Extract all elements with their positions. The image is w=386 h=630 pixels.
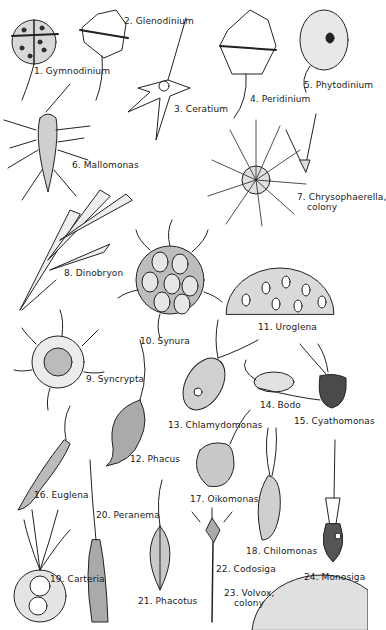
label-volvox-line1: 23. Volvox,	[224, 588, 274, 598]
label-phacotus: 21. Phacotus	[138, 596, 197, 606]
label-codosiga: 22. Codosiga	[216, 564, 276, 574]
chilomonas-drawing	[258, 428, 280, 540]
label-uroglena: 11. Uroglena	[258, 322, 317, 332]
label-gymnodinium: 1. Gymnodinium	[34, 66, 110, 76]
label-peridinium: 4. Peridinium	[250, 94, 310, 104]
synura-drawing	[118, 220, 222, 338]
label-bodo: 14. Bodo	[260, 400, 301, 410]
label-phytodinium: 5. Phytodinium	[304, 80, 373, 90]
label-carteria: 19. Carteria	[50, 574, 105, 584]
label-phacus: 12. Phacus	[130, 454, 180, 464]
phacus-drawing	[106, 340, 145, 466]
label-volvox: 23. Volvox, colony	[224, 588, 274, 608]
label-syncrypta: 9. Syncrypta	[86, 374, 144, 384]
label-cyathomonas: 15. Cyathomonas	[294, 416, 375, 426]
glenodinium-drawing	[80, 10, 128, 100]
monosiga-drawing	[323, 440, 343, 562]
ceratium-drawing	[128, 18, 190, 140]
label-chrysophaerella-line1: 7. Chrysophaerella,	[297, 192, 386, 202]
label-chrysophaerella-line2: colony	[297, 202, 386, 212]
gymnodinium-drawing	[12, 20, 58, 100]
label-volvox-line2: colony	[224, 598, 274, 608]
label-mallomonas: 6. Mallomonas	[72, 160, 139, 170]
label-euglena: 16. Euglena	[34, 490, 89, 500]
carteria-drawing	[14, 510, 70, 622]
label-peranema: 20. Peranema	[96, 510, 160, 520]
label-chilomonas: 18. Chilomonas	[246, 546, 317, 556]
syncrypta-drawing	[14, 310, 104, 410]
phacotus-drawing	[150, 480, 170, 590]
mallomonas-drawing	[4, 84, 90, 200]
label-oikomonas: 17. Oikomonas	[190, 494, 259, 504]
peranema-drawing	[88, 460, 108, 622]
bodo-drawing	[244, 360, 320, 400]
label-chlamydomonas: 13. Chlamydomonas	[168, 420, 262, 430]
label-monosiga: 24. Monosiga	[304, 572, 365, 582]
uroglena-drawing	[226, 268, 334, 314]
dinobryon-drawing	[20, 190, 132, 310]
label-chrysophaerella: 7. Chrysophaerella, colony	[297, 192, 386, 212]
label-synura: 10. Synura	[140, 336, 190, 346]
label-glenodinium: 2. Glenodinium	[124, 16, 194, 26]
label-ceratium: 3. Ceratium	[174, 104, 228, 114]
label-dinobryon: 8. Dinobryon	[64, 268, 123, 278]
